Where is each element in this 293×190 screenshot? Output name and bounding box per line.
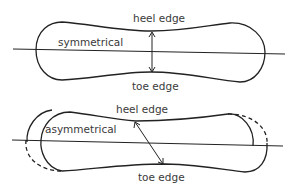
symmetrical-board: symmetrical heel edge toe edge xyxy=(13,12,285,92)
symmetrical-heel-edge-label: heel edge xyxy=(133,12,185,24)
symmetrical-label: symmetrical xyxy=(58,36,123,48)
asymmetrical-board: asymmetrical heel edge toe edge xyxy=(12,103,283,183)
symmetrical-center-axis xyxy=(13,49,285,54)
symmetrical-toe-edge-label: toe edge xyxy=(132,80,179,92)
asymmetrical-toe-edge-label: toe edge xyxy=(138,171,185,183)
asymmetrical-dashed-nose-reference xyxy=(228,114,267,143)
snowboard-shape-diagram: symmetrical heel edge toe edge asymmetri… xyxy=(0,0,293,190)
asymmetrical-heel-edge-label: heel edge xyxy=(116,103,168,115)
asymmetrical-label: asymmetrical xyxy=(45,123,117,135)
